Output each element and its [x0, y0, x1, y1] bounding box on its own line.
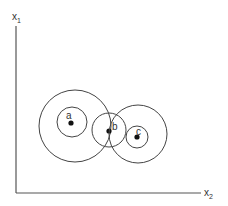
outer-circle-a [39, 90, 111, 162]
x-axis-label: x2 [204, 187, 213, 200]
point-a [68, 120, 73, 125]
y-axis-label: x1 [12, 11, 21, 24]
diagram-canvas: x1 x2 a b c [0, 0, 228, 206]
point-b-label: b [112, 121, 118, 132]
point-a-label: a [66, 110, 72, 121]
point-c-label: c [136, 126, 141, 137]
